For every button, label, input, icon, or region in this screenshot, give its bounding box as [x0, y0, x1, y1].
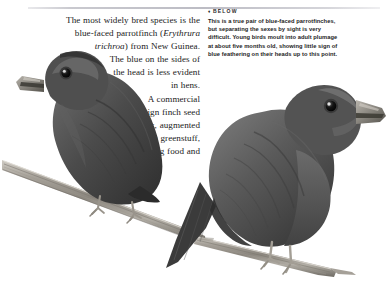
right-bird-feet [261, 242, 300, 274]
body-line-2: blue-faced parrotfinch (Erythrura [24, 27, 200, 40]
caption-line-2: but separating the sexes by sight is ver… [208, 25, 384, 33]
right-bird-head [284, 85, 361, 155]
body-line-6: in hens. [24, 79, 200, 92]
caption-line-1: This is a true pair of blue-faced parrot… [208, 17, 384, 25]
right-bird-tail [166, 182, 216, 268]
caption-text: This is a true pair of blue-faced parrot… [208, 17, 384, 59]
right-bird-body [209, 110, 334, 247]
species-name-italic-part-2: trichroa [95, 41, 125, 51]
species-name-italic-part-1: Erythrura [163, 28, 200, 38]
body-line-2-roman: blue-faced parrotfinch ( [75, 28, 163, 38]
left-bird-feet [90, 196, 141, 223]
body-line-3-roman: ) from New Guinea. [125, 41, 200, 51]
right-bird-eye-ring [324, 99, 338, 113]
caption-line-3: difficult. Young birds moult into adult … [208, 33, 384, 41]
caption-line-5: blue feathering on their heads up to thi… [208, 50, 384, 58]
body-line-7: A commercial [24, 93, 200, 106]
body-text-block: The most widely bred species is the blue… [24, 14, 200, 158]
body-line-11: egg food and [24, 145, 200, 158]
body-line-10: with greenstuff, [24, 132, 200, 145]
branch-perch [2, 160, 356, 277]
caption-line-4: at about five months old, showing little… [208, 42, 384, 50]
diamond-icon: ♦ [208, 9, 210, 14]
body-line-9: mix, augmented [24, 119, 200, 132]
body-line-8: foreign finch seed [24, 106, 200, 119]
caption-header: ♦ BELOW [208, 8, 384, 14]
right-bird-eye [326, 101, 337, 112]
caption-column: ♦ BELOW This is a true pair of blue-face… [208, 8, 384, 58]
body-line-3: trichroa) from New Guinea. [24, 40, 200, 53]
caption-header-label: BELOW [213, 8, 238, 14]
body-line-4: The blue on the sides of [24, 53, 200, 66]
body-line-5: the head is less evident [24, 66, 200, 79]
right-bird-beak [356, 100, 386, 124]
body-line-1: The most widely bred species is the [24, 14, 200, 27]
